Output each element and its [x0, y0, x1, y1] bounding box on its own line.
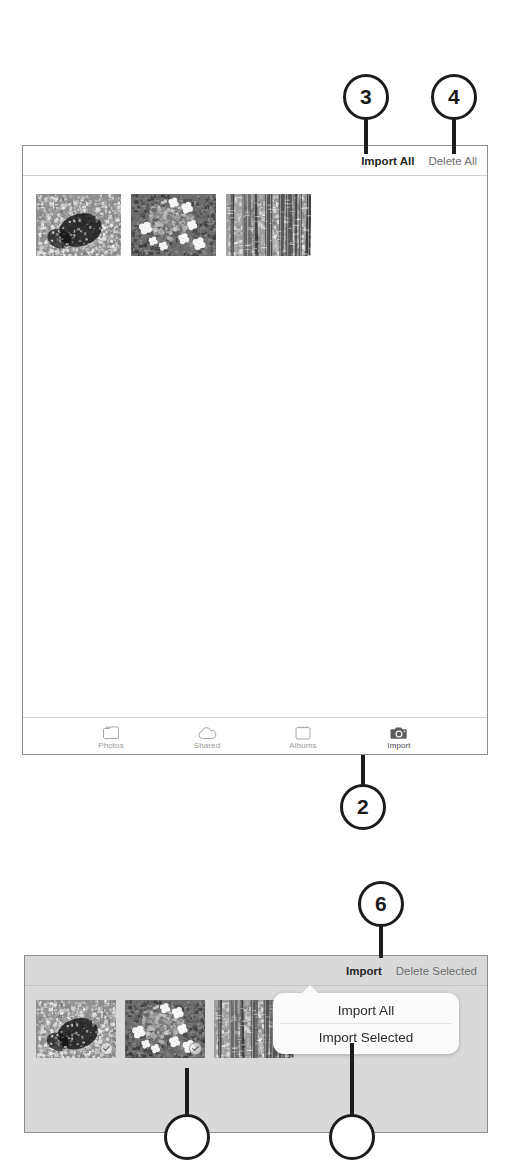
popover-arrow — [301, 985, 319, 994]
selected-check-icon — [100, 1042, 113, 1055]
delete-selected-button[interactable]: Delete Selected — [396, 965, 477, 977]
import-all-button[interactable]: Import All — [361, 155, 414, 167]
leader-line-6 — [379, 925, 383, 958]
photo-thumbnail[interactable] — [36, 1000, 116, 1058]
popover-item-import-all[interactable]: Import All — [273, 997, 459, 1023]
leader-line-4 — [452, 118, 456, 154]
leader-line-partial-left — [185, 1068, 189, 1118]
cloud-icon — [198, 723, 217, 740]
photo-thumbnail[interactable] — [131, 194, 216, 256]
photo-thumbnail[interactable] — [36, 194, 121, 256]
photos-icon — [103, 723, 120, 740]
callout-marker-partial-right — [329, 1114, 375, 1160]
photo-thumbnail[interactable] — [226, 194, 311, 256]
tab-label: Shared — [194, 741, 220, 750]
import-button[interactable]: Import — [346, 965, 382, 977]
callout-marker-4: 4 — [431, 74, 477, 120]
callout-marker-2: 2 — [340, 784, 386, 830]
tab-import[interactable]: Import — [371, 723, 427, 750]
camera-icon — [390, 723, 408, 740]
leader-line-partial-right — [350, 1043, 354, 1118]
tab-label: Albums — [289, 741, 316, 750]
import-popover-menu: Import All Import Selected — [273, 993, 459, 1054]
callout-number: 3 — [360, 85, 372, 109]
callout-marker-6: 6 — [358, 881, 404, 927]
callout-number: 6 — [375, 892, 387, 916]
popover-item-import-selected[interactable]: Import Selected — [273, 1024, 459, 1050]
tab-label: Photos — [98, 741, 124, 750]
callout-number: 4 — [448, 85, 460, 109]
bottom-tab-bar: Photos Shared Albums — [23, 717, 487, 754]
callout-marker-3: 3 — [343, 74, 389, 120]
callout-number: 2 — [357, 795, 369, 819]
panel-top-header: Import All Delete All — [23, 146, 487, 176]
tab-photos[interactable]: Photos — [83, 723, 139, 750]
tab-shared[interactable]: Shared — [179, 723, 235, 750]
panel-bottom-header: Import Delete Selected — [25, 956, 487, 986]
photo-thumbnail[interactable] — [125, 1000, 205, 1058]
delete-all-button[interactable]: Delete All — [428, 155, 477, 167]
import-screen-panel: Import All Delete All Photos — [22, 145, 488, 755]
albums-icon — [295, 723, 311, 740]
leader-line-3 — [364, 118, 368, 154]
import-selection-panel: Import Delete Selected Import All Import… — [24, 955, 488, 1133]
tab-label: Import — [387, 741, 410, 750]
photo-grid-top — [23, 176, 487, 256]
selected-check-icon — [189, 1042, 202, 1055]
callout-marker-partial-left — [164, 1114, 210, 1160]
tab-albums[interactable]: Albums — [275, 723, 331, 750]
